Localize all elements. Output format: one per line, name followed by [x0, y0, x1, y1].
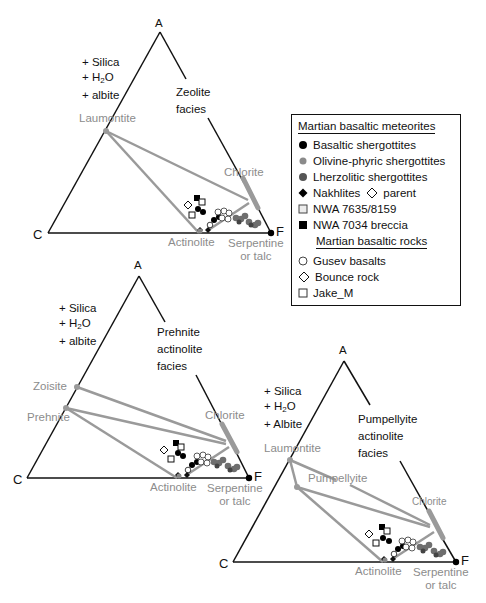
filled-square-black-icon — [298, 220, 308, 230]
mineral-label-chlorite: Chlorite — [205, 410, 245, 422]
acf-diagram-figure: A C F + Silica + H2O + albite Zeolite fa… — [0, 0, 486, 603]
additives-label: + Silica + H2O + albite — [82, 55, 119, 103]
legend-item: NWA 7635/8159 — [298, 201, 396, 216]
open-circle-icon — [298, 256, 308, 266]
mineral-label-serpentine: Serpentine or talc — [413, 566, 469, 592]
open-diamond-icon — [366, 187, 378, 199]
filled-circle-darkgray-icon — [298, 172, 308, 182]
legend-item: Olivine-phyric shergottites — [298, 153, 445, 168]
vertex-c-label: C — [219, 557, 228, 570]
mineral-label-zoisite: Zoisite — [33, 381, 67, 393]
additives-label: + Silica + H2O + Albite — [264, 384, 302, 432]
legend-item: Nakhlites parent — [298, 185, 416, 200]
mineral-label-pumpellyite: Pumpellyite — [308, 473, 367, 485]
mineral-label-serpentine: Serpentine or talc — [228, 237, 284, 263]
legend-item: Lherzolitic shergottites — [298, 169, 427, 184]
open-diamond-icon — [298, 271, 310, 283]
vertex-a-label: A — [155, 18, 163, 30]
mineral-label-prehnite: Prehnite — [27, 412, 70, 424]
filled-circle-black-icon — [298, 140, 308, 150]
facies-label-pumpellyite-actinolite: Pumpellyite actinolite facies — [358, 411, 417, 462]
mineral-label-laumontite: Laumontite — [79, 113, 136, 125]
mineral-label-chlorite: Chlorite — [224, 167, 264, 179]
open-square-lightfill-icon — [298, 204, 308, 214]
filled-diamond-black-icon — [298, 188, 308, 198]
vertex-a-label: A — [134, 260, 142, 272]
open-square-icon — [298, 288, 308, 298]
legend-item: NWA 7034 breccia — [298, 217, 408, 232]
legend-group-title-rocks: Martian basaltic rocks — [316, 234, 427, 249]
vertex-c-label: C — [33, 228, 42, 241]
facies-label-zeolite: Zeolite facies — [176, 84, 211, 118]
legend-item: Gusev basalts — [298, 253, 386, 268]
vertex-a-label: A — [339, 345, 347, 357]
legend-group-title-meteorites: Martian basaltic meteorites — [298, 119, 435, 134]
facies-label-prehnite-actinolite: Prehnite actinolite facies — [157, 324, 202, 375]
filled-circle-lightgray-icon — [298, 156, 308, 166]
additives-label: + Silica + H2O + albite — [59, 301, 96, 349]
data-points-prehnite-actinolite — [160, 440, 240, 479]
legend-item: Bounce rock — [298, 269, 379, 284]
mineral-label-actinolite: Actinolite — [355, 566, 402, 578]
legend: Martian basaltic meteorites Basaltic she… — [291, 114, 461, 306]
vertex-c-label: C — [13, 473, 22, 486]
legend-item: Jake_M — [298, 285, 353, 300]
legend-item: Basaltic shergottites — [298, 137, 416, 152]
mineral-label-actinolite: Actinolite — [150, 482, 197, 494]
mineral-label-laumontite: Laumontite — [264, 443, 321, 455]
mineral-label-serpentine: Serpentine or talc — [207, 482, 263, 508]
mineral-label-chlorite: Chlorite — [412, 497, 446, 507]
mineral-label-actinolite: Actinolite — [168, 237, 215, 249]
